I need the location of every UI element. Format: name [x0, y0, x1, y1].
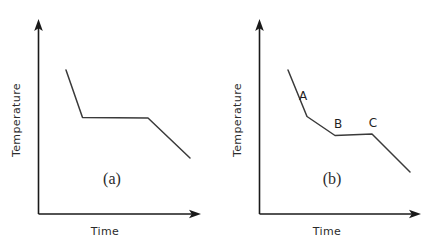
- panel-b-y-axis-label: Temperature: [231, 83, 244, 158]
- panel-b-point-label-b: B: [334, 117, 342, 131]
- panel-a-y-axis: [34, 19, 43, 214]
- panel-b-y-axis: [255, 19, 264, 214]
- panel-b: A B C Time Temperature (b): [231, 19, 421, 238]
- panel-a-x-axis-label: Time: [90, 225, 120, 238]
- panel-a-y-axis-label: Temperature: [10, 83, 23, 158]
- panel-a-caption: (a): [103, 170, 121, 188]
- panel-a-cooling-curve: [66, 70, 190, 158]
- panel-b-point-label-c: C: [369, 116, 377, 130]
- cooling-curves-figure: Time Temperature (a) A B C Time Temperat…: [0, 0, 442, 250]
- panel-a: Time Temperature (a): [10, 19, 201, 238]
- panel-b-x-axis: [260, 210, 422, 219]
- panel-b-caption: (b): [323, 170, 342, 188]
- panel-a-x-axis: [39, 210, 202, 219]
- panel-b-x-axis-label: Time: [312, 225, 342, 238]
- panel-b-cooling-curve: [288, 70, 410, 172]
- panel-b-point-label-a: A: [299, 89, 308, 103]
